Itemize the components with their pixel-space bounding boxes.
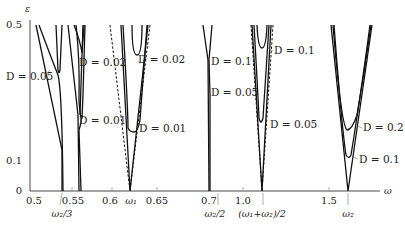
annotation-d01-a: D = 0.1 [211, 55, 252, 67]
annotation-d001-b: D = 0.01 [139, 122, 186, 134]
annotation-d002-a: D = 0.02 [79, 56, 126, 68]
tongue-w2-d01 [334, 25, 370, 158]
annotation-d005-b: D = 0.05 [211, 86, 258, 98]
x-axis-label: ω [384, 185, 392, 196]
tongue-w2-2-left [203, 25, 209, 191]
annotation-leader [268, 48, 273, 51]
x-tick-label: 0.6 [102, 195, 118, 206]
x-tick-label: 1.5 [321, 195, 337, 206]
annotation-d005-c: D = 0.05 [270, 118, 317, 130]
x-tick-label: 1.0 [235, 195, 251, 206]
tongue-w2-2-right [209, 25, 212, 191]
tongue-w2-3-inner [39, 25, 63, 191]
resonance-label-w2-3: ω₂/3 [52, 208, 73, 219]
x-tick-label: 0.7 [201, 195, 217, 206]
y-tick-label: 0 [16, 185, 22, 196]
annotation-d01-b: D = 0.1 [274, 44, 315, 56]
y-tick-label: 0.1 [6, 155, 22, 166]
x-tick-label: 0.5 [26, 195, 42, 206]
x-tick-label: 0.65 [146, 195, 168, 206]
tongue-w12-d01 [257, 25, 267, 48]
annotation-d002-b: D = 0.02 [138, 53, 185, 65]
tongue-w2-3-d005 [56, 25, 62, 73]
annotation-leader [353, 157, 358, 159]
annotation-d001-a: D = 0.01 [79, 114, 126, 126]
resonance-label-w1: ω₁ [125, 195, 137, 206]
tongue-w1-d001 [123, 25, 147, 132]
y-tick-label: 0.5 [6, 19, 22, 30]
annotation-d02: D = 0.2 [363, 121, 404, 133]
resonance-label-w2: ω₂ [342, 208, 354, 219]
annotation-d01-c: D = 0.1 [359, 153, 400, 165]
x-tick-label: 0.55 [62, 195, 84, 206]
y-axis-label: ε [25, 3, 30, 14]
tongue-w1-d002 [132, 25, 142, 55]
resonance-label-w2-2: ω₂/2 [205, 208, 226, 219]
tongue-055-left [68, 25, 79, 191]
tongue-w2-boundary [331, 25, 372, 191]
annotation-d005-a: D = 0.05 [6, 70, 53, 82]
resonance-label-w12-2: (ω₁+ω₂)/2 [238, 208, 286, 219]
tongue-chart: ω ε 0 0.1 0.5 0.5 0.55 0.6 0.65 0.7 1.0 … [0, 0, 405, 232]
